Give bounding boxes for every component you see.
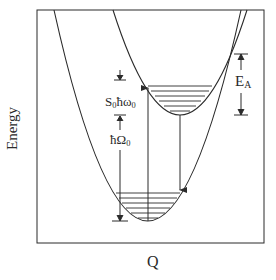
y-axis-label: Energy — [4, 107, 21, 150]
x-axis-label: Q — [147, 253, 159, 271]
hbar-omega-label: ħΩ0 — [110, 132, 130, 148]
s0-hbar-omega-label: S0ħω0 — [105, 94, 136, 110]
s0-label-rest: ħω — [116, 94, 131, 109]
s0-label-rest-sub: 0 — [132, 100, 136, 110]
activation-energy-label: EA — [235, 73, 251, 90]
hbar-label-main: ħΩ — [110, 132, 126, 147]
upper-well-levels — [148, 86, 212, 111]
configuration-coordinate-diagram — [0, 0, 276, 280]
hbar-label-sub: 0 — [126, 138, 130, 148]
ea-label-main: E — [235, 73, 244, 89]
ea-label-sub: A — [244, 79, 251, 90]
